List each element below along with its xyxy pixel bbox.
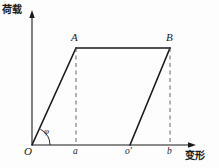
load-deformation-diagram: 荷载 变形 O φ A B a o' b — [0, 0, 219, 168]
y-axis-title: 荷载 — [2, 5, 22, 15]
tick-label-o-prime: o' — [125, 147, 132, 157]
origin-label: O — [24, 146, 32, 157]
segment-OA — [32, 48, 76, 145]
y-axis-arrowhead — [29, 10, 34, 18]
segment-oprime-B — [130, 48, 170, 145]
x-axis-arrowhead — [188, 142, 196, 147]
tick-label-a: a — [73, 147, 78, 157]
x-axis-title: 变形 — [185, 151, 205, 161]
tick-label-b: b — [167, 147, 172, 157]
diagram-canvas — [0, 0, 219, 168]
y-axis — [29, 10, 34, 145]
point-label-A: A — [71, 32, 78, 43]
angle-phi-label: φ — [44, 127, 49, 136]
point-label-B: B — [166, 32, 173, 43]
